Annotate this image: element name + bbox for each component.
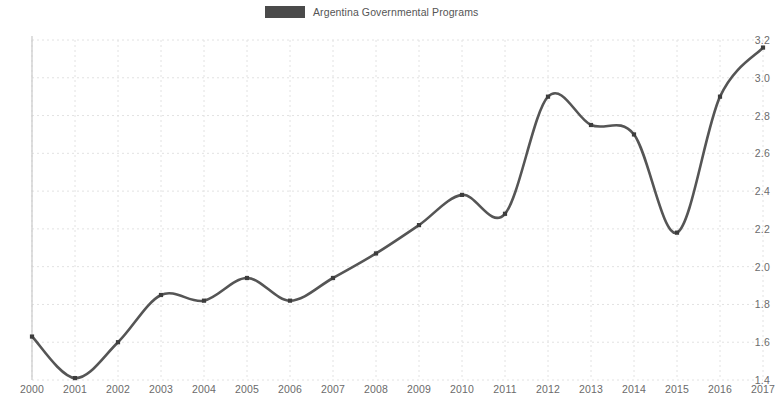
- data-point-marker: [331, 276, 335, 280]
- x-axis-tick-label: 2001: [63, 383, 87, 395]
- x-axis-tick-label: 2017: [751, 383, 775, 395]
- x-axis-tick-label: 2016: [708, 383, 732, 395]
- y-axis-tick-label: 2.0: [744, 261, 770, 273]
- data-point-marker: [589, 123, 593, 127]
- data-point-marker: [761, 45, 765, 49]
- x-axis-tick-label: 2008: [364, 383, 388, 395]
- y-axis-tick-label: 1.6: [744, 336, 770, 348]
- y-axis-tick-label: 3.2: [744, 34, 770, 46]
- x-axis-tick-label: 2013: [579, 383, 603, 395]
- x-axis-tick-label: 2003: [149, 383, 173, 395]
- data-point-marker: [632, 132, 636, 136]
- data-point-marker: [503, 212, 507, 216]
- y-axis-tick-label: 2.2: [744, 223, 770, 235]
- x-axis-tick-label: 2005: [235, 383, 259, 395]
- y-axis-tick-label: 2.8: [744, 110, 770, 122]
- data-point-marker: [30, 334, 34, 338]
- x-axis-tick-label: 2002: [106, 383, 130, 395]
- y-axis-tick-label: 1.8: [744, 298, 770, 310]
- x-axis-tick-label: 2006: [278, 383, 302, 395]
- y-axis-tick-label: 3.0: [744, 72, 770, 84]
- data-point-marker: [374, 251, 378, 255]
- data-point-marker: [116, 340, 120, 344]
- data-point-marker: [460, 193, 464, 197]
- x-axis-tick-label: 2015: [665, 383, 689, 395]
- data-point-marker: [202, 299, 206, 303]
- data-point-marker: [546, 95, 550, 99]
- x-axis-tick-label: 2000: [20, 383, 44, 395]
- data-point-marker: [417, 223, 421, 227]
- x-axis-tick-label: 2009: [407, 383, 431, 395]
- x-axis-tick-label: 2004: [192, 383, 216, 395]
- x-axis-tick-label: 2007: [321, 383, 345, 395]
- data-point-marker: [718, 95, 722, 99]
- x-axis-tick-label: 2010: [450, 383, 474, 395]
- y-axis-tick-label: 2.4: [744, 185, 770, 197]
- data-point-marker: [73, 376, 77, 380]
- x-axis-tick-label: 2012: [536, 383, 560, 395]
- data-line-series: [32, 48, 763, 379]
- data-point-marker: [245, 276, 249, 280]
- x-axis-tick-label: 2014: [622, 383, 646, 395]
- data-point-marker: [288, 299, 292, 303]
- x-axis-tick-label: 2011: [493, 383, 516, 395]
- data-point-marker: [675, 231, 679, 235]
- data-point-marker: [159, 293, 163, 297]
- y-axis-tick-label: 2.6: [744, 147, 770, 159]
